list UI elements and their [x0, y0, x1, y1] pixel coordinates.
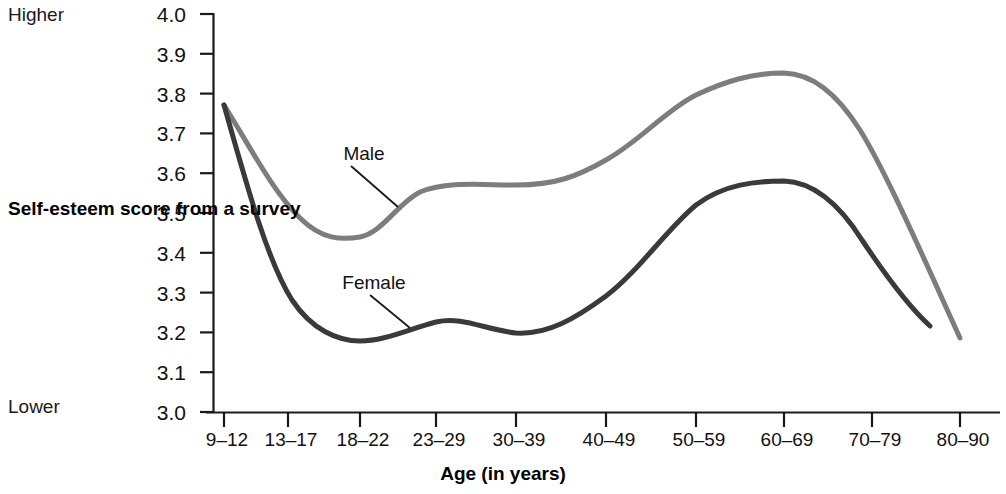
- x-tick-label: 50–59: [673, 429, 726, 451]
- x-tick-marks: [224, 413, 960, 427]
- y-tick-label: 3.4: [134, 242, 186, 266]
- male-leader-line: [351, 166, 398, 207]
- series-label-male: Male: [343, 143, 384, 165]
- x-tick-label: 60–69: [761, 429, 814, 451]
- x-tick-label: 80–90: [937, 429, 990, 451]
- y-tick-label: 3.3: [134, 282, 186, 306]
- series-label-female: Female: [342, 272, 405, 294]
- y-tick-label: 3.6: [134, 162, 186, 186]
- x-tick-label: 70–79: [849, 429, 902, 451]
- series-line-female: [224, 105, 930, 341]
- chart-figure: Higher Lower Self-esteem score from a su…: [0, 0, 1006, 494]
- y-tick-label: 3.8: [134, 83, 186, 107]
- x-tick-label: 18–22: [337, 429, 390, 451]
- x-axis-title: Age (in years): [0, 463, 1006, 484]
- y-tick-label: 3.2: [134, 321, 186, 345]
- series-line-male: [224, 73, 960, 338]
- x-tick-label: 23–29: [413, 429, 466, 451]
- y-tick-label: 3.7: [134, 122, 186, 146]
- y-tick-label: 3.5: [134, 202, 186, 226]
- x-tick-label: 9–12: [206, 429, 248, 451]
- y-axis-low-label: Lower: [8, 396, 60, 417]
- y-tick-label: 4.0: [134, 3, 186, 27]
- x-tick-label: 30–39: [493, 429, 546, 451]
- x-tick-label: 40–49: [583, 429, 636, 451]
- female-leader-line: [370, 295, 410, 328]
- y-tick-label: 3.0: [134, 401, 186, 425]
- y-tick-label: 3.9: [134, 43, 186, 67]
- y-tick-label: 3.1: [134, 361, 186, 385]
- x-tick-label: 13–17: [265, 429, 318, 451]
- y-axis-high-label: Higher: [8, 4, 64, 25]
